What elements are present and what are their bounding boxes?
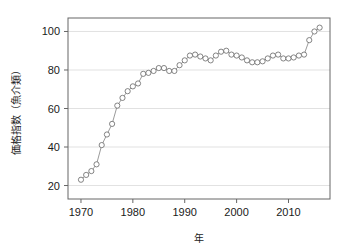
data-point <box>239 55 244 60</box>
x-tick-label-2010: 2010 <box>276 206 300 218</box>
data-point <box>110 121 115 126</box>
data-point <box>89 168 94 173</box>
data-point <box>250 60 255 65</box>
data-point <box>177 63 182 68</box>
data-point <box>301 52 306 57</box>
data-point <box>161 65 166 70</box>
data-point <box>104 132 109 137</box>
data-point <box>182 58 187 63</box>
data-point <box>317 25 322 30</box>
x-axis-tick-labels: 19701980199020002010 <box>69 206 301 218</box>
data-point <box>218 49 223 54</box>
data-point <box>203 56 208 61</box>
data-point <box>146 70 151 75</box>
data-point <box>125 89 130 94</box>
data-point <box>99 142 104 147</box>
data-point <box>276 52 281 57</box>
data-point <box>296 53 301 58</box>
price-index-line-chart: 19701980199020002010 20406080100 年 価格指数（… <box>0 0 350 249</box>
data-point <box>135 81 140 86</box>
data-point <box>141 71 146 76</box>
x-tick-label-1980: 1980 <box>121 206 145 218</box>
data-point <box>187 53 192 58</box>
data-point <box>307 38 312 43</box>
x-tick-label-2000: 2000 <box>224 206 248 218</box>
data-point <box>156 65 161 70</box>
data-point <box>94 162 99 167</box>
data-point <box>84 172 89 177</box>
y-tick-label-60: 60 <box>48 103 60 115</box>
y-axis-ticks <box>64 31 68 185</box>
data-point <box>130 84 135 89</box>
data-point <box>270 53 275 58</box>
data-point <box>115 103 120 108</box>
data-point <box>120 95 125 100</box>
x-axis-ticks <box>81 199 289 203</box>
data-point <box>167 68 172 73</box>
data-point <box>291 55 296 60</box>
x-axis-title: 年 <box>194 232 204 244</box>
y-axis-tick-labels: 20406080100 <box>42 25 60 191</box>
x-tick-label-1990: 1990 <box>172 206 196 218</box>
data-point <box>198 54 203 59</box>
y-tick-label-100: 100 <box>42 25 60 37</box>
data-point <box>234 53 239 58</box>
data-point <box>281 56 286 61</box>
chart-container: 19701980199020002010 20406080100 年 価格指数（… <box>0 0 350 249</box>
data-point <box>260 59 265 64</box>
data-point <box>244 58 249 63</box>
y-tick-label-40: 40 <box>48 141 60 153</box>
data-point <box>255 60 260 65</box>
data-point <box>172 68 177 73</box>
data-point <box>213 53 218 58</box>
data-point <box>229 52 234 57</box>
y-tick-label-80: 80 <box>48 64 60 76</box>
data-point <box>78 177 83 182</box>
y-tick-label-20: 20 <box>48 180 60 192</box>
data-point <box>151 68 156 73</box>
data-point <box>208 58 213 63</box>
y-axis-title: 価格指数（魚介類） <box>10 65 22 155</box>
data-point <box>265 56 270 61</box>
data-point-markers <box>78 25 322 182</box>
data-point <box>312 29 317 34</box>
data-point <box>193 52 198 57</box>
data-point <box>286 56 291 61</box>
x-tick-label-1970: 1970 <box>69 206 93 218</box>
data-point <box>224 48 229 53</box>
